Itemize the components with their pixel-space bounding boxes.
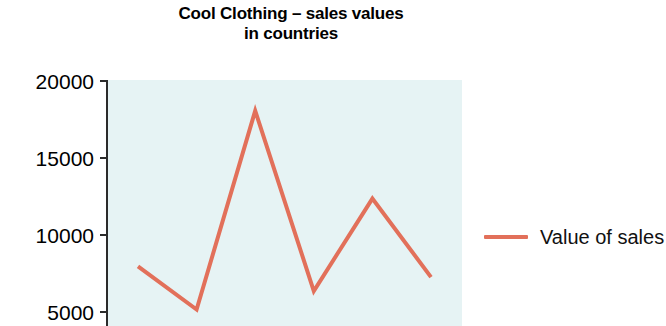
chart-title-line-1: Cool Clothing – sales values — [108, 4, 474, 24]
series-line-value-of-sales — [108, 80, 462, 326]
y-tick-label-15000: 15000 — [36, 148, 94, 169]
chart-title: Cool Clothing – sales values in countrie… — [108, 4, 474, 44]
chart-title-line-2: in countries — [108, 24, 474, 44]
y-tick-label-10000: 10000 — [36, 225, 94, 246]
line-chart: Cool Clothing – sales values in countrie… — [0, 0, 666, 326]
y-tick-label-20000: 20000 — [36, 71, 94, 92]
y-tick-label-5000: 5000 — [47, 302, 94, 323]
plot-area — [108, 80, 462, 326]
legend-label-value-of-sales: Value of sales — [540, 226, 664, 248]
legend-line-swatch-icon — [484, 235, 528, 239]
series-polyline — [138, 111, 431, 310]
legend: Value of sales — [484, 226, 664, 248]
